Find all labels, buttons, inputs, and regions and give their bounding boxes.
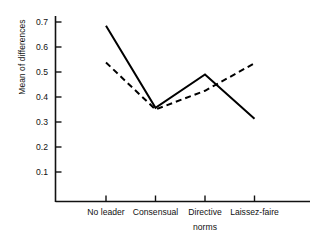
chart-figure: Mean of differences 0.10.20.30.40.50.60.…	[0, 0, 321, 247]
y-tick-label: 0.5	[22, 67, 48, 77]
x-axis-ticks	[106, 196, 255, 202]
y-tick-label: 0.1	[22, 167, 48, 177]
x-tick-label: Laissez-faire	[230, 207, 279, 217]
y-tick-label: 0.2	[22, 142, 48, 152]
x-axis-title: norms	[193, 222, 217, 232]
x-tick-label: Directive	[188, 207, 221, 217]
series-line-dashed	[106, 63, 255, 110]
series-line-solid	[106, 26, 255, 119]
y-axis-ticks	[56, 22, 62, 172]
y-tick-label: 0.6	[22, 42, 48, 52]
x-tick-label: No leader	[87, 207, 124, 217]
y-tick-label: 0.3	[22, 117, 48, 127]
y-tick-label: 0.7	[22, 17, 48, 27]
data-series-group	[106, 26, 255, 119]
x-tick-label: Consensual	[133, 207, 178, 217]
y-tick-label: 0.4	[22, 92, 48, 102]
